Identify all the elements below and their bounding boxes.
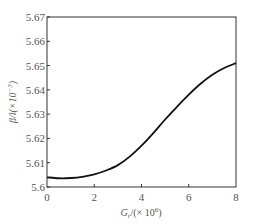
- x-tick-label: 8: [233, 191, 239, 203]
- x-tick-label: 0: [44, 191, 50, 203]
- y-axis-title: β/l(×10−3): [6, 80, 19, 124]
- x-tick-label: 6: [186, 191, 192, 203]
- plot-frame: [47, 17, 236, 187]
- y-tick-label: 5.65: [26, 60, 46, 72]
- y-tick-label: 5.62: [26, 132, 45, 144]
- x-tick-label: 2: [92, 191, 98, 203]
- y-tick-label: 5.63: [26, 108, 46, 120]
- x-tick-label: 4: [139, 191, 145, 203]
- x-axis-title: Gr/(× 106): [120, 206, 161, 220]
- y-tick-label: 5.61: [26, 157, 45, 169]
- line-chart: 5.65.615.625.635.645.655.665.67 02468 Gr…: [0, 0, 253, 224]
- data-curve: [47, 63, 236, 178]
- y-tick-label: 5.64: [26, 84, 46, 96]
- y-axis-ticks: 5.65.615.625.635.645.655.665.67: [26, 11, 50, 193]
- y-tick-label: 5.67: [26, 11, 46, 23]
- y-tick-label: 5.66: [26, 35, 46, 47]
